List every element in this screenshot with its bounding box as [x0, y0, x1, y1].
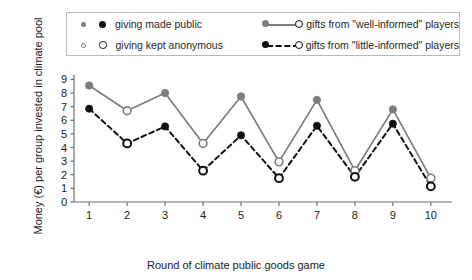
y-tick-label: 0	[53, 196, 67, 208]
data-point	[199, 167, 207, 175]
y-tick-label: 1	[53, 182, 67, 194]
circle-open-black-icon	[99, 41, 107, 49]
x-tick-label: 7	[307, 209, 327, 221]
data-point	[275, 174, 283, 182]
data-point	[427, 182, 435, 190]
data-point	[313, 96, 320, 103]
x-tick-label: 5	[231, 209, 251, 221]
x-tick-label: 4	[193, 209, 213, 221]
data-point	[427, 174, 435, 182]
legend-entry-little-informed: gifts from "little-informed" players	[256, 40, 459, 51]
y-tick-label: 9	[53, 73, 67, 85]
data-point	[162, 123, 169, 130]
data-point	[389, 106, 396, 113]
dashed-line-sample-icon	[262, 40, 306, 50]
data-point	[85, 82, 92, 89]
y-tick-label: 2	[53, 169, 67, 181]
x-axis-title: Round of climate public goods game	[0, 259, 472, 271]
circle-open-gray-icon	[81, 43, 86, 48]
legend-label: giving kept anonymous	[116, 40, 223, 51]
x-tick-label: 2	[117, 209, 137, 221]
data-point	[123, 107, 131, 115]
legend-row: giving made public gifts from "well-info…	[67, 13, 459, 35]
legend-entry-giving-kept-anonymous: giving kept anonymous	[67, 40, 256, 51]
legend-series-label: gifts from "little-informed" players	[306, 40, 459, 51]
x-tick-label: 9	[383, 209, 403, 221]
data-point	[161, 89, 168, 96]
legend-entry-giving-made-public: giving made public	[67, 19, 256, 30]
x-tick-label: 10	[421, 209, 441, 221]
legend-row: giving kept anonymous gifts from "little…	[67, 34, 459, 56]
plot-area: 0123456789 12345678910	[56, 62, 456, 224]
data-point	[275, 158, 283, 166]
series-line	[89, 86, 431, 179]
data-point	[199, 140, 207, 148]
data-point	[86, 105, 93, 112]
y-tick-label: 7	[53, 101, 67, 113]
data-point	[237, 132, 244, 139]
x-tick-label: 6	[269, 209, 289, 221]
data-point	[351, 173, 359, 181]
chart-figure: giving made public gifts from "well-info…	[0, 0, 472, 280]
series-line	[89, 109, 431, 187]
y-axis-title: Money (€) per group invested in climate …	[32, 16, 44, 236]
dot-filled-gray-icon	[81, 22, 86, 27]
chart-legend: giving made public gifts from "well-info…	[66, 12, 460, 56]
y-tick-label: 3	[53, 155, 67, 167]
y-tick-label: 4	[53, 142, 67, 154]
x-tick-label: 8	[345, 209, 365, 221]
data-point	[123, 140, 131, 148]
x-tick-label: 3	[155, 209, 175, 221]
data-point	[237, 93, 244, 100]
dot-filled-black-icon	[99, 21, 106, 28]
solid-line-sample-icon	[262, 19, 306, 29]
legend-entry-well-informed: gifts from "well-informed" players	[256, 19, 459, 30]
legend-series-label: gifts from "well-informed" players	[306, 19, 459, 30]
y-tick-label: 5	[53, 128, 67, 140]
y-tick-label: 8	[53, 87, 67, 99]
legend-label: giving made public	[115, 19, 202, 30]
data-point	[313, 122, 320, 129]
data-point	[389, 120, 396, 127]
x-tick-label: 1	[79, 209, 99, 221]
chart-canvas	[56, 62, 456, 224]
y-tick-label: 6	[53, 114, 67, 126]
